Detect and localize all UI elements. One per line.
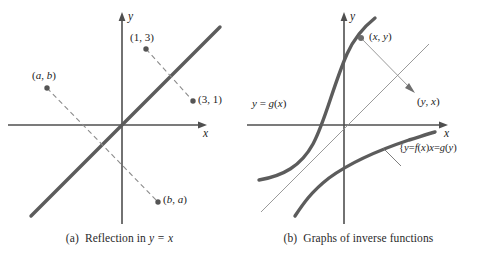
y-axis-label-b: y xyxy=(350,10,355,22)
caption-b-prefix: (b) xyxy=(284,232,298,244)
point-x-y-dot xyxy=(358,35,364,41)
label-y-equals-g-of-x: y = g(x) xyxy=(252,98,286,110)
panel-a-graphic xyxy=(0,0,239,232)
point-3-1-dot xyxy=(190,98,195,103)
point-a-b-dot xyxy=(44,85,49,90)
figure-container: y x (1, 3) (3, 1) (a, b) (b, a) (a) Refl… xyxy=(0,0,478,256)
x-axis-a xyxy=(8,122,207,129)
line-y-equals-x-a xyxy=(31,27,220,216)
x-axis-label-b: x xyxy=(444,127,449,139)
point-1-3-label: (1, 3) xyxy=(130,32,154,44)
point-b-a-dot xyxy=(155,199,160,204)
point-b-a-label: (b, a) xyxy=(163,194,187,206)
point-a-b-label: (a, b) xyxy=(32,70,56,82)
point-3-1-label: (3, 1) xyxy=(198,94,222,106)
y-axis-a xyxy=(119,12,126,224)
caption-panel-b: (b) Graphs of inverse functions xyxy=(239,232,478,244)
caption-a-prefix: (a) xyxy=(66,232,79,244)
label-point-x-y: (x, y) xyxy=(369,31,392,43)
panel-graphs-of-inverse-functions: y x y = g(x) (x, y) (y, x) { y = f(x) x … xyxy=(239,0,478,256)
y-axis-b xyxy=(341,12,348,224)
label-f-and-g-pair: { y = f(x) x = g(y) xyxy=(399,142,457,153)
label-point-y-x: (y, x) xyxy=(417,96,440,108)
x-axis-label-a: x xyxy=(203,127,208,139)
caption-panel-a: (a) Reflection in y = x xyxy=(0,232,239,244)
caption-a-text: Reflection in xyxy=(85,232,146,244)
caption-b-text: Graphs of inverse functions xyxy=(303,232,433,244)
caption-a-equation: y = x xyxy=(149,232,173,244)
point-1-3-dot xyxy=(143,46,148,51)
panel-b-graphic xyxy=(239,0,478,232)
y-axis-label-a: y xyxy=(128,10,133,22)
line-y-equals-x-b xyxy=(261,44,429,212)
panel-reflection-in-y-equals-x: y x (1, 3) (3, 1) (a, b) (b, a) (a) Refl… xyxy=(0,0,239,256)
